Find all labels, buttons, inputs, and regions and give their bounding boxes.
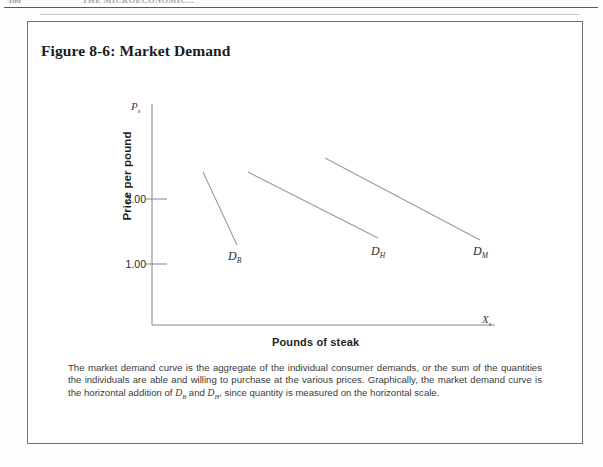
curve-dh [248, 172, 378, 238]
caption-symbol-dh: DH [207, 387, 219, 398]
curve-label-dm: DM [473, 244, 488, 260]
caption-line-3-part-b: and [186, 387, 207, 398]
y-axis-title: Price per pound [121, 111, 133, 241]
x-axis-title: Pounds of steak [272, 336, 359, 348]
scanned-page: 166 THE MICROECONOMIC... Figure 8-6: Mar… [0, 0, 603, 467]
x-axis-symbol: Xs [482, 313, 491, 328]
figure-caption: The market demand curve is the aggregate… [68, 362, 542, 403]
curve-label-db: DB [228, 249, 241, 265]
caption-line-2: the individuals are able and willing to … [68, 374, 532, 385]
y-tick-label-100: 1.00 [112, 258, 146, 270]
curve-label-dh: DH [371, 244, 385, 260]
caption-symbol-db: DB [175, 387, 186, 398]
caption-line-1: The market demand curve is the aggregate… [68, 362, 542, 373]
curve-dm [325, 158, 480, 240]
caption-line-3-part-c: , since quantity is measured on the hori… [219, 387, 439, 398]
curve-db [203, 172, 237, 245]
